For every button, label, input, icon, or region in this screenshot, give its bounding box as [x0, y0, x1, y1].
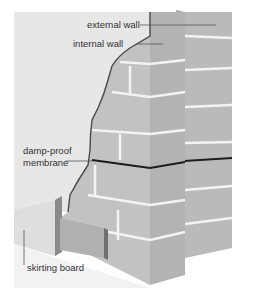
- label-membrane: membrane: [23, 157, 68, 168]
- label-skirting-board: skirting board: [27, 262, 84, 273]
- label-internal-wall: internal wall: [73, 38, 123, 49]
- label-damp-proof: damp-proof: [23, 145, 72, 156]
- label-external-wall: external wall: [87, 19, 140, 30]
- wall-diagram: [0, 0, 257, 288]
